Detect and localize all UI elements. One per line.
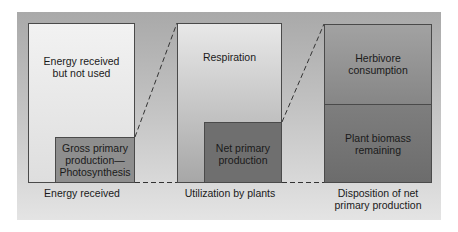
connector-npp-to-disposition: [282, 24, 324, 122]
connector-gpp-to-utilization: [135, 23, 177, 137]
dashed-connectors: [0, 0, 458, 232]
